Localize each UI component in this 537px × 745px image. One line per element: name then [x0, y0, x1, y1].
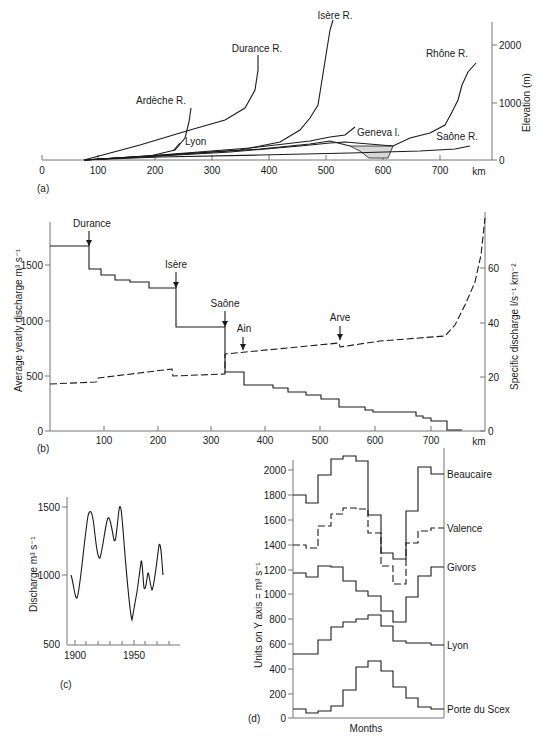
- panel-a-ytick: 2000: [499, 40, 522, 51]
- panel-a-y-title: Elevation (m): [521, 73, 532, 132]
- panel-c-ytick: 1500: [38, 502, 61, 513]
- panel-b-xtick: 700: [423, 435, 440, 446]
- figure: 0 100 200 300 400 500 600 700 km 0 1000 …: [0, 0, 537, 745]
- marker-saone: Saône: [211, 298, 240, 327]
- panel-d-ytick: 1800: [264, 490, 287, 501]
- panel-b-ytick-left: 1500: [21, 260, 44, 271]
- panel-a-x-unit: km: [472, 166, 485, 177]
- panel-a-xtick: 300: [204, 165, 221, 176]
- svg-text:Arve: Arve: [330, 312, 351, 323]
- panel-b-xtick: 600: [367, 435, 384, 446]
- marker-durance: Durance: [73, 218, 111, 246]
- beaucaire-step-line: [293, 456, 444, 559]
- panel-b-ytick-right: 20: [488, 372, 500, 383]
- panel-a-ytick: 1000: [499, 98, 522, 109]
- panel-a-xtick: 400: [261, 165, 278, 176]
- panel-d-label: (d): [248, 713, 260, 724]
- panel-b-xtick: 500: [312, 435, 329, 446]
- panel-b-ytick-right: 60: [488, 263, 500, 274]
- panel-a-xtick: 0: [39, 165, 45, 176]
- panel-d-y-ticks: [288, 470, 293, 718]
- panel-c-label: (c): [60, 679, 72, 690]
- panel-d-ytick: 600: [269, 639, 286, 650]
- panel-a: 0 100 200 300 400 500 600 700 km 0 1000 …: [37, 10, 532, 194]
- label-valence: Valence: [447, 523, 483, 534]
- label-beaucaire: Beaucaire: [447, 469, 492, 480]
- label-porte-du-scex: Porte du Scex: [447, 704, 510, 715]
- panel-a-ytick: 0: [499, 155, 505, 166]
- label-saone: Saône R.: [436, 131, 478, 142]
- panel-b: 0 500 1000 1500 Average yearly discharge…: [13, 212, 520, 454]
- panel-c-x-ticks: [75, 640, 169, 645]
- panel-a-label: (a): [37, 183, 49, 194]
- panel-d-y-title: Units on Y axis = m³ s⁻¹: [253, 562, 264, 668]
- panel-d-ytick: 1400: [264, 540, 287, 551]
- panel-d-ytick: 1600: [264, 515, 287, 526]
- panel-a-xtick: 500: [318, 165, 335, 176]
- panel-b-label: (b): [37, 443, 49, 454]
- svg-text:Durance: Durance: [73, 218, 111, 229]
- durance-profile: [84, 55, 258, 160]
- panel-c: 1500 1000 500 1900 1950 Discharge m³ s⁻¹…: [28, 497, 180, 690]
- panel-b-right-title: Specific discharge l/s⁻¹ km⁻²: [509, 263, 520, 390]
- lyon-step-line: [293, 615, 444, 654]
- discharge-step-line: [50, 246, 462, 430]
- panel-b-xtick: 100: [96, 435, 113, 446]
- label-lyon-station: Lyon: [447, 640, 468, 651]
- panel-c-y-title: Discharge m³ s⁻¹: [28, 536, 39, 612]
- label-rhone: Rhône R.: [426, 48, 468, 59]
- label-geneva: Geneva l.: [357, 127, 400, 138]
- panel-b-ytick-left: 500: [26, 371, 43, 382]
- panel-c-xtick: 1900: [64, 650, 87, 661]
- panel-b-ytick-right: 0: [488, 426, 494, 437]
- panel-d-x-title: Months: [350, 723, 383, 734]
- panel-d-ytick: 800: [269, 614, 286, 625]
- panel-b-xtick: 200: [150, 435, 167, 446]
- panel-c-ytick: 500: [43, 639, 60, 650]
- panel-b-ytick-right: 40: [488, 318, 500, 329]
- panel-b-xtick: 400: [257, 435, 274, 446]
- svg-text:Ain: Ain: [237, 323, 251, 334]
- panel-d-ytick: 200: [269, 689, 286, 700]
- label-isere: Isère R.: [317, 10, 352, 21]
- panel-b-x-unit: km: [472, 436, 485, 447]
- panel-a-xtick: 100: [90, 165, 107, 176]
- porte-du-scex-step-line: [293, 661, 444, 713]
- panel-b-xtick: 300: [203, 435, 220, 446]
- svg-text:Isère: Isère: [165, 259, 188, 270]
- label-ardeche: Ardèche R.: [136, 95, 186, 106]
- panel-b-ytick-left: 0: [37, 426, 43, 437]
- discharge-timeseries-line: [71, 507, 163, 620]
- panel-c-ytick: 1000: [38, 570, 61, 581]
- panel-b-left-title: Average yearly discharge m³ s⁻¹: [13, 248, 24, 392]
- label-lyon: Lyon: [185, 136, 206, 147]
- panel-a-xtick: 600: [375, 165, 392, 176]
- panel-d-ytick: 2000: [264, 465, 287, 476]
- panel-c-xtick: 1950: [123, 650, 146, 661]
- panel-d-ytick: 1000: [264, 589, 287, 600]
- label-durance: Durance R.: [232, 43, 283, 54]
- panel-d-ytick: 1200: [264, 565, 287, 576]
- lyon-pointer: [173, 143, 180, 151]
- label-givors: Givors: [447, 562, 476, 573]
- specific-discharge-line: [50, 218, 485, 384]
- panel-b-ytick-left: 1000: [21, 316, 44, 327]
- panel-a-xtick: 700: [432, 165, 449, 176]
- panel-d-ytick: 0: [280, 713, 286, 724]
- valence-step-line: [293, 508, 444, 584]
- marker-ain: Ain: [237, 323, 251, 350]
- givors-step-line: [293, 566, 444, 622]
- panel-a-xtick: 200: [147, 165, 164, 176]
- panel-d: 0 200 400 600 800 1000 1200 1400 1600 18…: [248, 448, 510, 734]
- isere-profile: [84, 20, 333, 160]
- marker-isere: Isère: [165, 259, 188, 288]
- marker-arve: Arve: [330, 312, 351, 340]
- svg-text:Saône: Saône: [211, 298, 240, 309]
- panel-d-ytick: 400: [269, 664, 286, 675]
- rhone-profile: [84, 63, 476, 160]
